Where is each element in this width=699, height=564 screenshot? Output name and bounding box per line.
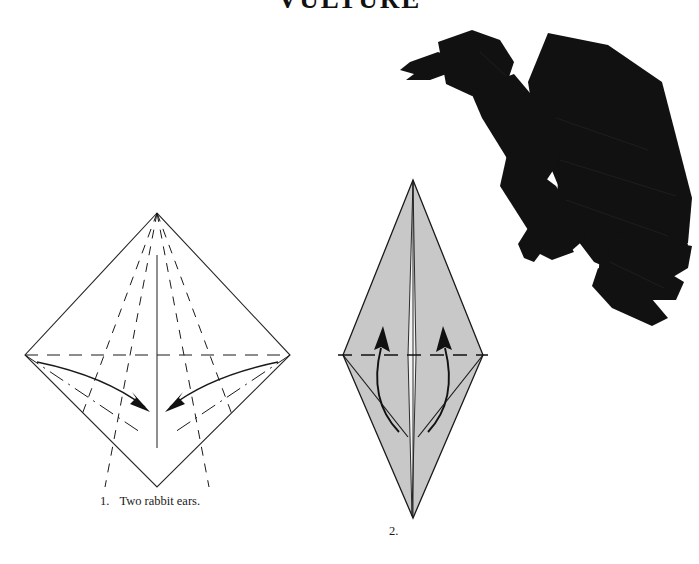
vulture-body-group <box>400 30 692 326</box>
origami-vulture-photo <box>0 0 699 564</box>
origami-instruction-page: VULTURE 1.Two rab <box>0 0 699 564</box>
